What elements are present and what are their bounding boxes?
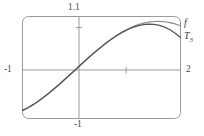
y-axis-max-label: 1.1 [68,3,80,13]
plot-canvas [0,0,204,136]
curve-t3-label-subscript: 3 [190,36,194,44]
curve-f-label: f [184,18,187,28]
graph-figure: 1.1 -1 2 -1 f T3 [0,0,204,136]
curve-t3-label: T3 [184,31,193,44]
x-axis-min-label: -1 [4,65,12,75]
curve-f [23,21,181,110]
curves-group [23,21,181,110]
y-axis-min-label: -1 [74,120,82,130]
curve-t3 [23,24,181,110]
x-axis-max-label: 2 [186,65,191,75]
plot-frame [23,17,181,119]
